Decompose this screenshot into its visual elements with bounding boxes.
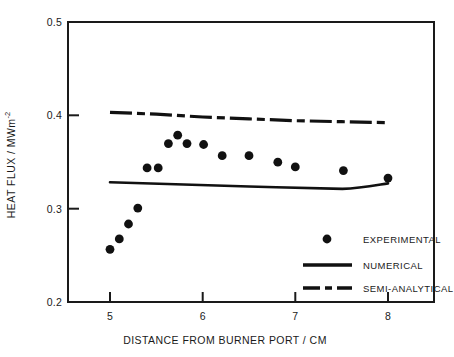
ytick-label-2: 0.3 <box>36 203 62 215</box>
data-point <box>133 204 142 213</box>
legend-marker-experimental <box>323 235 332 244</box>
data-point <box>339 166 348 175</box>
data-point <box>173 131 182 140</box>
legend-label-numerical: NUMERICAL <box>363 260 423 271</box>
y-axis-title-base: HEAT FLUX / MWm <box>5 118 17 218</box>
data-point <box>106 245 115 254</box>
ytick-label-0: 0.5 <box>36 16 62 28</box>
data-point <box>245 151 254 160</box>
data-point <box>183 139 192 148</box>
data-point <box>218 151 227 160</box>
y-axis-title-exponent: -2 <box>3 112 12 119</box>
ytick-label-3: 0.2 <box>36 296 62 308</box>
xtick-label-2: 7 <box>292 310 298 322</box>
data-point <box>124 220 133 229</box>
ytick-label-1: 0.4 <box>36 109 62 121</box>
x-axis-title: DISTANCE FROM BURNER PORT / CM <box>0 334 450 346</box>
data-point <box>164 139 173 148</box>
data-point <box>143 164 152 173</box>
y-axis-title: HEAT FLUX / MWm-2 <box>3 112 17 218</box>
xtick-label-1: 6 <box>200 310 206 322</box>
xtick-label-0: 5 <box>107 310 113 322</box>
data-point <box>291 163 300 172</box>
data-point <box>154 164 163 173</box>
legend-label-semi-analytical: SEMI-ANALYTICAL <box>363 283 454 294</box>
xtick-label-3: 8 <box>385 310 391 322</box>
data-point <box>115 235 124 244</box>
data-point <box>273 158 282 167</box>
data-point <box>384 174 393 183</box>
legend-label-experimental: EXPERIMENTAL <box>363 234 441 245</box>
data-point <box>199 140 208 149</box>
